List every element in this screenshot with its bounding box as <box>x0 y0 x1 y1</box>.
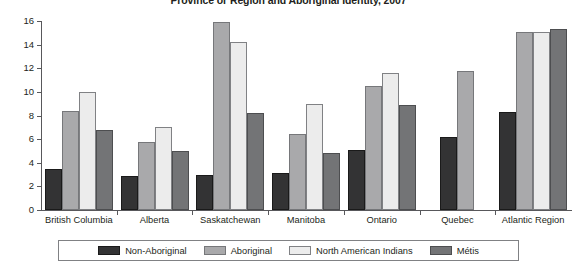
bar[interactable] <box>306 104 323 210</box>
y-axis-tick-label: 10 <box>23 85 34 98</box>
bar[interactable] <box>79 92 96 210</box>
bar-group-bars <box>196 21 264 210</box>
plot-area: British ColumbiaAlbertaSaskatchewanManit… <box>41 21 571 210</box>
bar[interactable] <box>230 42 247 210</box>
legend-item[interactable]: North American Indians <box>289 246 413 256</box>
y-axis-tick: 16 <box>0 21 41 22</box>
bar[interactable] <box>550 29 567 210</box>
bar[interactable] <box>62 111 79 210</box>
bar-group <box>499 21 567 210</box>
bar-group-bars <box>272 21 340 210</box>
legend-item[interactable]: Non-Aboriginal <box>98 246 187 256</box>
y-axis-tick-label: 0 <box>29 203 34 216</box>
bar[interactable] <box>213 22 230 210</box>
bar[interactable] <box>533 32 550 210</box>
y-axis-tick: 12 <box>0 68 41 69</box>
y-axis-tick-label: 16 <box>23 14 34 27</box>
x-axis-category-label: British Columbia <box>41 215 117 225</box>
bar[interactable] <box>138 142 155 211</box>
y-axis-tick: 2 <box>0 186 41 187</box>
bar[interactable] <box>247 113 264 210</box>
y-axis-tick-label: 14 <box>23 38 34 51</box>
bar[interactable] <box>499 112 516 210</box>
bar[interactable] <box>365 86 382 210</box>
bar-group-bars <box>499 21 567 210</box>
bar[interactable] <box>440 137 457 210</box>
chart-title: Province or Region and Aboriginal Identi… <box>0 0 577 6</box>
bar-group-bars <box>45 21 113 210</box>
bar-group <box>272 21 340 210</box>
bar[interactable] <box>45 169 62 210</box>
x-axis-category-label: Ontario <box>344 215 420 225</box>
bar[interactable] <box>272 173 289 210</box>
y-axis-tick-label: 6 <box>29 132 34 145</box>
bar-group <box>348 21 416 210</box>
bar[interactable] <box>196 175 213 210</box>
bar[interactable] <box>96 130 113 210</box>
bar[interactable] <box>323 153 340 210</box>
y-axis-tick-label: 12 <box>23 61 34 74</box>
x-axis-category-label: Alberta <box>117 215 193 225</box>
y-axis-tick: 14 <box>0 45 41 46</box>
legend-swatch <box>289 246 311 255</box>
legend-swatch <box>204 246 226 255</box>
x-axis-category-label: Quebec <box>420 215 496 225</box>
y-axis-tick: 10 <box>0 92 41 93</box>
x-axis-category-label: Saskatchewan <box>192 215 268 225</box>
bar-group <box>45 21 113 210</box>
legend-swatch <box>430 246 452 255</box>
legend-label: Métis <box>457 246 479 256</box>
legend-swatch <box>98 246 120 255</box>
legend-item[interactable]: Métis <box>430 246 479 256</box>
x-axis-category-label: Manitoba <box>268 215 344 225</box>
y-axis-tick: 8 <box>0 116 41 117</box>
bar[interactable] <box>348 150 365 210</box>
bar-group <box>440 21 474 210</box>
bar-group-bars <box>348 21 416 210</box>
bar[interactable] <box>457 71 474 210</box>
y-axis-tick: 6 <box>0 139 41 140</box>
y-axis-tick-label: 4 <box>29 156 34 169</box>
bar-group <box>196 21 264 210</box>
bar-group-bars <box>440 21 474 210</box>
bar[interactable] <box>382 73 399 210</box>
bar-group-bars <box>121 21 189 210</box>
legend-item[interactable]: Aboriginal <box>204 246 272 256</box>
bar[interactable] <box>172 151 189 210</box>
y-axis-tick: 0 <box>0 210 41 211</box>
y-axis-tick-mark <box>37 210 41 211</box>
legend-label: Non-Aboriginal <box>125 246 187 256</box>
y-axis-tick-label: 2 <box>29 179 34 192</box>
y-axis-tick: 4 <box>0 163 41 164</box>
bar-group <box>121 21 189 210</box>
bar[interactable] <box>121 176 138 210</box>
bar[interactable] <box>399 105 416 210</box>
bar[interactable] <box>289 134 306 210</box>
bar[interactable] <box>155 127 172 210</box>
chart-legend: Non-AboriginalAboriginalNorth American I… <box>58 240 519 261</box>
x-axis-line <box>41 210 572 211</box>
y-axis-tick-label: 8 <box>29 109 34 122</box>
legend-label: North American Indians <box>316 246 413 256</box>
legend-label: Aboriginal <box>231 246 272 256</box>
x-axis-category-label: Atlantic Region <box>495 215 571 225</box>
bar[interactable] <box>516 32 533 210</box>
